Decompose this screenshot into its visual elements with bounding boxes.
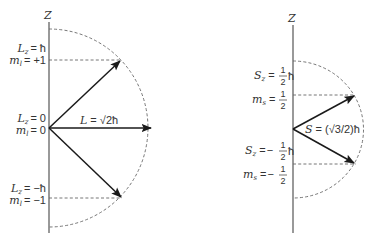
sz-label-minus-half: Sz=− 1 2 ħ	[245, 140, 294, 162]
svg-text:2: 2	[280, 101, 285, 111]
ms-label-plus-half: ms= 1 2	[252, 89, 287, 111]
svg-text:ħ: ħ	[288, 145, 294, 157]
z-axis-label: Z	[287, 12, 296, 25]
z-axis-label: Z	[43, 9, 52, 22]
svg-text:2: 2	[280, 152, 285, 162]
ml-label-0: ml= 0	[16, 124, 46, 138]
vector-magnitude-label: S = (√3/2)ħ	[305, 123, 360, 136]
svg-text:1: 1	[280, 65, 285, 75]
svg-text:1: 1	[280, 89, 285, 99]
svg-text:Sz=−: Sz=−	[245, 144, 273, 158]
angular-momentum-diagram: Z L = √2ħ Lz= ħ ml= +1 Lz= 0 ml= 0 Lz= −…	[0, 0, 375, 244]
vector-magnitude-label: L = √2ħ	[79, 114, 118, 127]
svg-text:2: 2	[280, 176, 285, 186]
svg-text:2: 2	[280, 77, 285, 87]
svg-text:1: 1	[280, 164, 285, 174]
vector-ml-minus1	[49, 128, 121, 197]
sz-label-plus-half: Sz= 1 2 ħ	[254, 65, 294, 87]
orbital-diagram: Z L = √2ħ Lz= ħ ml= +1 Lz= 0 ml= 0 Lz= −…	[9, 9, 151, 233]
svg-text:ħ: ħ	[288, 70, 294, 82]
svg-text:ms=: ms=	[252, 93, 275, 107]
ml-label-minus1: ml= −1	[9, 194, 46, 208]
ms-label-minus-half: ms=− 1 2	[243, 164, 287, 186]
ml-label-plus1: ml= +1	[9, 54, 46, 68]
svg-text:1: 1	[280, 140, 285, 150]
svg-text:ms=−: ms=−	[243, 168, 274, 182]
spin-diagram: Z S = (√3/2)ħ Sz= 1 2 ħ ms= 1 2 Sz=−	[243, 12, 364, 233]
svg-text:Sz=: Sz=	[254, 69, 275, 83]
